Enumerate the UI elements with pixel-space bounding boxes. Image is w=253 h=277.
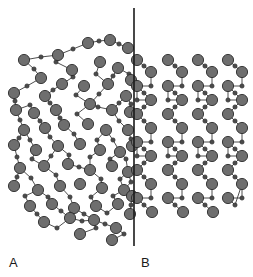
bridging-atom <box>95 138 99 142</box>
network-atom <box>8 139 19 150</box>
bridging-atom <box>226 154 230 158</box>
bridging-atom <box>240 196 244 200</box>
bridging-atom <box>142 203 146 207</box>
network-atom <box>236 178 247 189</box>
network-atom <box>46 198 57 209</box>
network-atom <box>162 164 173 175</box>
bridging-atom <box>173 64 177 68</box>
network-atom <box>176 150 187 161</box>
bridging-atom <box>72 132 76 136</box>
bridging-atom <box>233 119 237 123</box>
bridging-atom <box>51 88 55 92</box>
network-atom <box>96 182 107 193</box>
network-atom <box>222 136 233 147</box>
bridging-atom <box>142 105 146 109</box>
bridging-atom <box>13 99 17 103</box>
bridging-atom <box>15 175 19 179</box>
bridging-atom <box>94 226 98 230</box>
network-atom <box>94 144 105 155</box>
network-atom <box>206 66 217 77</box>
network-atom <box>38 216 49 227</box>
bridging-atom <box>135 98 139 102</box>
network-atom <box>162 80 173 91</box>
network-atom <box>74 228 85 239</box>
bridging-atom <box>142 175 146 179</box>
bridging-atom <box>149 196 153 200</box>
bridging-atom <box>18 118 22 122</box>
network-atom <box>64 212 75 223</box>
network-atom <box>207 206 218 217</box>
network-atom <box>236 122 247 133</box>
network-atom <box>82 118 93 129</box>
network-atom <box>192 80 203 91</box>
network-atom <box>106 104 117 115</box>
network-atom <box>39 90 50 101</box>
region-label-a: A <box>9 256 18 269</box>
bridging-atom <box>88 155 92 159</box>
network-structure-figure: A B <box>0 0 253 277</box>
bridging-atom <box>233 105 237 109</box>
bridging-atom <box>15 155 19 159</box>
bridging-atom <box>68 195 72 199</box>
bridging-atom <box>210 196 214 200</box>
network-atom <box>94 56 105 67</box>
bridging-atom <box>117 101 121 105</box>
bridging-atom <box>173 119 177 123</box>
network-atom <box>30 144 41 155</box>
bridging-atom <box>173 147 177 151</box>
network-atom <box>38 160 49 171</box>
network-atom <box>222 80 233 91</box>
bridging-atom <box>173 203 177 207</box>
bridging-atom <box>17 136 21 140</box>
network-atom <box>192 164 203 175</box>
network-atom <box>222 108 233 119</box>
network-atom <box>192 54 203 65</box>
bridging-atom <box>180 140 184 144</box>
network-atom <box>145 150 156 161</box>
network-atom <box>112 198 123 209</box>
bridging-atom <box>226 98 230 102</box>
bridging-atom <box>233 91 237 95</box>
network-atom <box>24 200 35 211</box>
bridging-atom <box>129 180 133 184</box>
network-atom <box>110 222 121 233</box>
network-atom <box>112 62 123 73</box>
bridging-atom <box>117 42 121 46</box>
figure-background <box>0 0 253 277</box>
network-atom <box>104 34 115 45</box>
bridging-atom <box>180 196 184 200</box>
bridging-atom <box>103 222 107 226</box>
network-atom <box>162 192 173 203</box>
bridging-atom <box>49 154 53 158</box>
bridging-atom <box>173 161 177 165</box>
network-atom <box>222 164 233 175</box>
bridging-atom <box>28 138 32 142</box>
bridging-atom <box>77 165 81 169</box>
network-atom <box>131 136 142 147</box>
network-atom <box>236 94 247 105</box>
bridging-atom <box>58 116 62 120</box>
bridging-atom <box>23 194 27 198</box>
network-atom <box>131 80 142 91</box>
bridging-atom <box>135 154 139 158</box>
bridging-atom <box>29 176 33 180</box>
region-label-b: B <box>141 256 150 269</box>
bridging-atom <box>210 140 214 144</box>
bridging-atom <box>166 154 170 158</box>
bridging-atom <box>99 177 103 181</box>
bridging-atom <box>203 64 207 68</box>
network-atom <box>18 124 29 135</box>
bridging-atom <box>180 84 184 88</box>
bridging-atom <box>117 119 121 123</box>
bridging-atom <box>233 203 237 207</box>
network-atom <box>192 108 203 119</box>
network-atom <box>74 178 85 189</box>
bridging-atom <box>203 161 207 165</box>
bridging-atom <box>149 84 153 88</box>
network-atom <box>206 122 217 133</box>
bridging-atom <box>233 64 237 68</box>
bridging-atom <box>240 140 244 144</box>
bridging-atom <box>173 175 177 179</box>
network-atom <box>192 136 203 147</box>
bridging-atom <box>25 84 29 88</box>
